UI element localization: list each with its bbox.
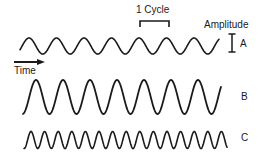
- cycle-label: 1 Cycle: [136, 5, 169, 15]
- amplitude-marker-icon: [229, 34, 236, 52]
- wave-b: [23, 80, 221, 114]
- time-label: Time: [14, 66, 36, 76]
- wave-b-label: B: [241, 92, 248, 102]
- wave-a-label: A: [240, 39, 247, 49]
- amplitude-label: Amplitude: [204, 20, 248, 30]
- wave-c: [24, 132, 227, 149]
- cycle-bracket: [140, 21, 169, 27]
- wave-c-label: C: [241, 133, 248, 143]
- wave-a: [20, 38, 219, 54]
